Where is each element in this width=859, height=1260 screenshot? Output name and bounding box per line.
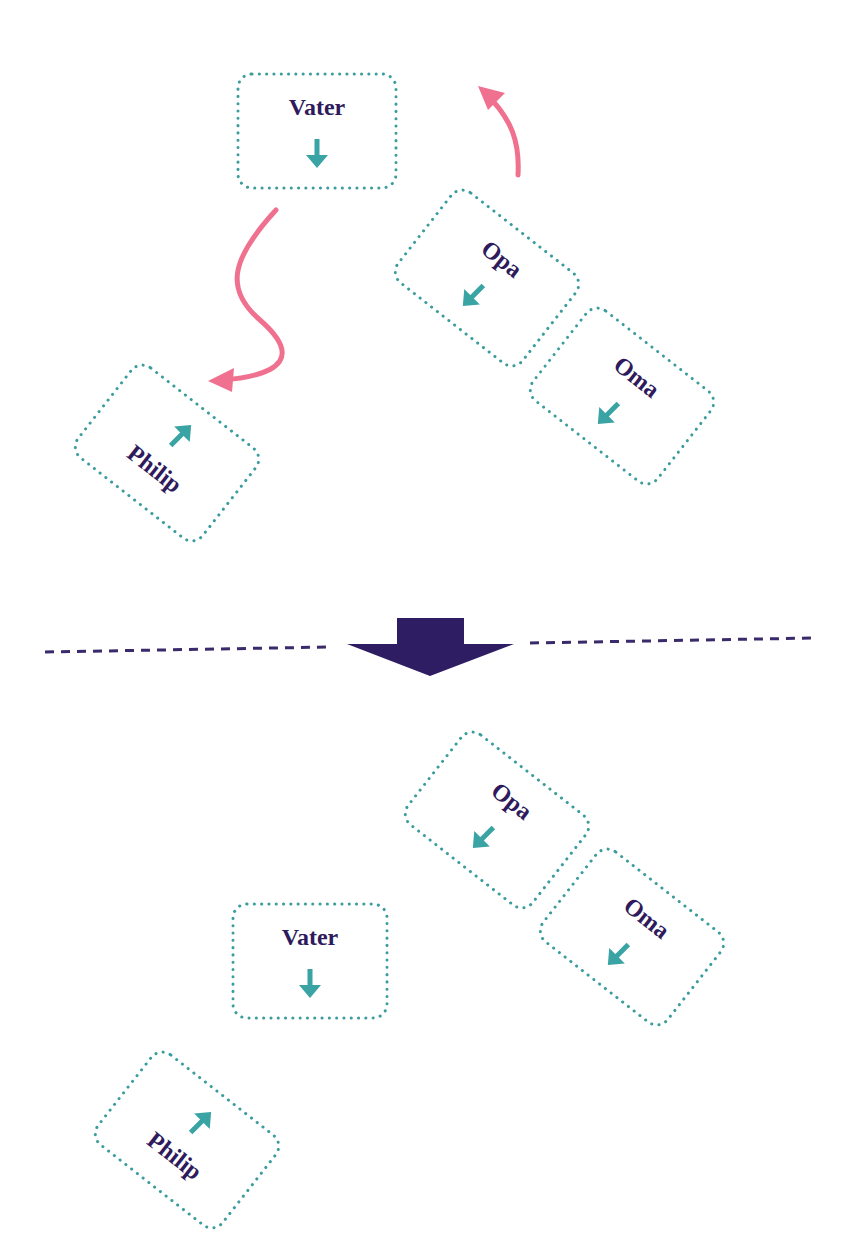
label-vater: Vater <box>282 924 339 950</box>
move-arrow-opa-up <box>478 86 518 175</box>
down-left-arrow-icon <box>455 278 491 314</box>
person-box-vater: Vater <box>233 904 387 1018</box>
label-vater: Vater <box>289 94 346 120</box>
label-opa: Opa <box>476 235 527 283</box>
label-opa: Opa <box>486 777 537 825</box>
down-left-arrow-icon <box>465 820 501 856</box>
dotted-border <box>90 1046 285 1233</box>
divider-right <box>530 638 815 643</box>
person-box-oma: Oma <box>525 302 720 489</box>
dotted-border <box>238 74 396 188</box>
up-right-arrow-icon <box>183 1104 219 1140</box>
down-arrow-icon <box>299 969 321 998</box>
down-left-arrow-icon <box>600 937 636 973</box>
family-constellation-diagram: VaterOpaOmaPhilip OpaOmaVaterPhilip <box>0 0 859 1260</box>
dotted-border <box>535 843 730 1030</box>
person-box-opa: Opa <box>400 726 595 913</box>
move-arrow-vater-to-philip <box>208 210 282 392</box>
person-box-philip: Philip <box>90 1046 285 1233</box>
down-arrow-icon <box>306 139 328 168</box>
after-arrangement: OpaOmaVaterPhilip <box>90 726 730 1233</box>
transition-arrow-icon <box>347 618 514 676</box>
dotted-border <box>70 359 265 546</box>
dotted-border <box>525 302 720 489</box>
divider-left <box>45 647 330 652</box>
label-philip: Philip <box>123 440 187 498</box>
label-oma: Oma <box>609 351 665 403</box>
person-box-opa: Opa <box>390 184 585 371</box>
dotted-border <box>233 904 387 1018</box>
person-box-oma: Oma <box>535 843 730 1030</box>
person-box-philip: Philip <box>70 359 265 546</box>
before-arrangement: VaterOpaOmaPhilip <box>70 74 720 547</box>
up-right-arrow-icon <box>163 417 199 453</box>
down-left-arrow-icon <box>590 396 626 432</box>
person-box-vater: Vater <box>238 74 396 188</box>
dotted-border <box>390 184 585 371</box>
dotted-border <box>400 726 595 913</box>
label-oma: Oma <box>619 892 675 944</box>
transition-section <box>45 618 815 676</box>
label-philip: Philip <box>143 1127 207 1185</box>
